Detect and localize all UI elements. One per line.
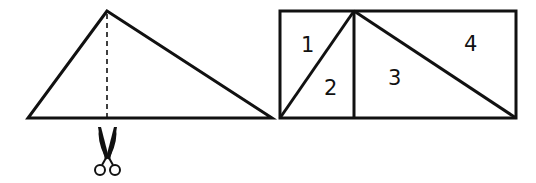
diagonal-left (280, 11, 354, 118)
assembled-rectangle: 1 2 3 4 (280, 11, 516, 118)
diagonal-right (354, 11, 516, 118)
piece-4-label: 4 (464, 32, 477, 56)
piece-3-label: 3 (388, 66, 401, 90)
scissors-icon (95, 127, 120, 175)
original-triangle (28, 11, 272, 118)
triangle-rearrangement-diagram: 1 2 3 4 (0, 0, 536, 183)
piece-1-label: 1 (301, 33, 314, 57)
piece-2-label: 2 (324, 76, 337, 100)
